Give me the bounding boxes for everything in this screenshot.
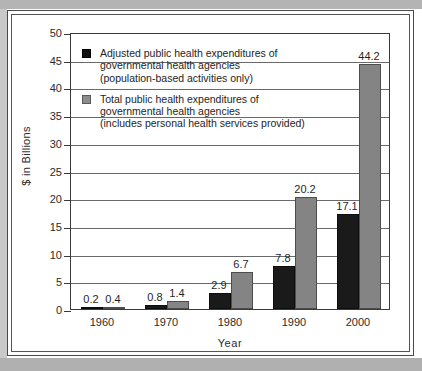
- y-tick-mark: [64, 117, 71, 118]
- legend-line: governmental health agencies: [100, 105, 305, 117]
- y-axis-tick-labels: 05101520253035404550: [38, 0, 62, 371]
- y-tick-mark: [64, 173, 71, 174]
- y-tick-label: 45: [40, 56, 62, 67]
- legend-line: governmental health agencies: [100, 59, 277, 71]
- legend-item-label: Total public health expenditures ofgover…: [100, 93, 305, 130]
- legend-line: Adjusted public health expenditures of: [100, 47, 277, 59]
- legend-item-2: Total public health expenditures ofgover…: [82, 93, 332, 130]
- gridline: [71, 145, 389, 146]
- y-tick-mark: [64, 89, 71, 90]
- bar-1990-series1: [273, 266, 295, 309]
- legend-item-1: Adjusted public health expenditures ofgo…: [82, 47, 332, 84]
- y-tick-label: 35: [40, 111, 62, 122]
- x-tick-label-2000: 2000: [326, 316, 390, 328]
- x-axis-title: Year: [70, 337, 390, 349]
- legend-swatch-gray: [82, 95, 91, 104]
- bar-chart: $ in Billions 05101520253035404550 0.20.…: [0, 0, 422, 371]
- y-tick-label: 15: [40, 222, 62, 233]
- y-tick-mark: [64, 145, 71, 146]
- y-tick-label: 25: [40, 167, 62, 178]
- legend-line: (population-based activities only): [100, 72, 277, 84]
- y-tick-label: 10: [40, 250, 62, 261]
- bar-value-label: 1.4: [161, 288, 193, 299]
- page-root: $ in Billions 05101520253035404550 0.20.…: [0, 0, 422, 371]
- x-tick-label-1980: 1980: [198, 316, 262, 328]
- legend-swatch-dark: [82, 49, 91, 58]
- x-tick-label-1970: 1970: [134, 316, 198, 328]
- x-tick-label-1990: 1990: [262, 316, 326, 328]
- legend-line: Total public health expenditures of: [100, 93, 305, 105]
- bar-value-label: 0.4: [97, 294, 129, 305]
- bar-1970-series1: [145, 305, 167, 309]
- y-tick-mark: [64, 200, 71, 201]
- gridline: [71, 173, 389, 174]
- y-tick-mark: [64, 283, 71, 284]
- bar-2000-series2: [359, 64, 381, 309]
- bar-value-label: 17.1: [331, 201, 363, 212]
- y-tick-label: 0: [40, 305, 62, 316]
- y-tick-label: 5: [40, 277, 62, 288]
- y-tick-label: 50: [40, 28, 62, 39]
- bar-value-label: 6.7: [225, 259, 257, 270]
- bar-2000-series1: [337, 214, 359, 309]
- y-axis-title: $ in Billions: [20, 101, 32, 211]
- bar-value-label: 44.2: [353, 51, 385, 62]
- bar-1960-series2: [103, 307, 125, 309]
- y-tick-label: 40: [40, 83, 62, 94]
- y-tick-mark: [64, 256, 71, 257]
- bar-value-label: 2.9: [203, 280, 235, 291]
- x-tick-label-1960: 1960: [70, 316, 134, 328]
- legend-line: (includes personal health services provi…: [100, 117, 305, 129]
- bar-1960-series1: [81, 307, 103, 309]
- y-tick-mark: [64, 62, 71, 63]
- y-tick-label: 20: [40, 194, 62, 205]
- bar-1980-series1: [209, 293, 231, 309]
- y-tick-mark: [64, 34, 71, 35]
- bar-value-label: 20.2: [289, 184, 321, 195]
- y-tick-mark: [64, 311, 71, 312]
- y-tick-label: 30: [40, 139, 62, 150]
- legend-item-label: Adjusted public health expenditures ofgo…: [100, 47, 277, 84]
- chart-legend: Adjusted public health expenditures ofgo…: [82, 47, 332, 139]
- y-tick-mark: [64, 228, 71, 229]
- bar-value-label: 7.8: [267, 253, 299, 264]
